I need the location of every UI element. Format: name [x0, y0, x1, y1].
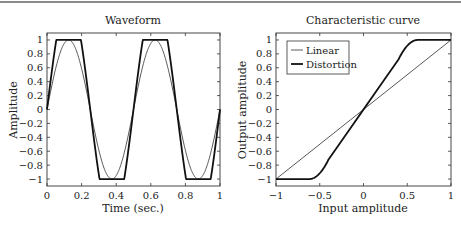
y-tick-label: 0.4: [256, 76, 272, 87]
y-tick-label: −0.4: [19, 132, 43, 143]
x-tick-label: 0.4: [108, 190, 124, 201]
y-tick-label: 0.8: [256, 48, 272, 59]
chart-title: Characteristic curve: [306, 14, 420, 27]
y-tick-label: 0.4: [27, 76, 43, 87]
legend: Linear Distortion: [287, 41, 357, 74]
y-tick-label: −0.8: [248, 160, 272, 171]
characteristic-curve-chart: Characteristic curve −1−0.500.5110.80.60…: [236, 14, 454, 215]
axes: 00.20.40.60.8110.80.60.40.20−0.2−0.4−0.6…: [19, 33, 223, 201]
x-tick-label: 0.2: [74, 190, 90, 201]
x-tick-label: −0.5: [308, 190, 332, 201]
figure: Waveform 00.20.40.60.8110.80.60.40.20−0.…: [0, 0, 461, 227]
y-tick-label: −0.6: [248, 146, 272, 157]
x-tick-label: 0.8: [177, 190, 193, 201]
y-tick-label: 0.2: [256, 90, 272, 101]
y-axis-label: Amplitude: [7, 81, 20, 140]
y-tick-label: 0: [37, 104, 43, 115]
legend-distortion-label: Distortion: [306, 59, 357, 70]
x-tick-label: 0: [360, 190, 366, 201]
y-tick-label: −0.6: [19, 146, 43, 157]
waveform-chart: Waveform 00.20.40.60.8110.80.60.40.20−0.…: [7, 14, 223, 215]
x-tick-label: −1: [269, 190, 284, 201]
x-tick-label: 0: [44, 190, 50, 201]
y-tick-label: 1: [37, 34, 43, 45]
y-tick-label: −0.4: [248, 132, 272, 143]
x-axis-label: Time (sec.): [102, 202, 164, 215]
y-axis-label: Output amplitude: [236, 61, 249, 160]
y-tick-label: 0: [266, 104, 272, 115]
y-tick-label: 0.6: [27, 62, 43, 73]
y-tick-label: −1: [257, 174, 272, 185]
x-tick-label: 1: [448, 190, 454, 201]
y-tick-label: 0.6: [256, 62, 272, 73]
y-tick-label: −0.2: [248, 118, 272, 129]
legend-linear-label: Linear: [306, 45, 339, 56]
x-axis-label: Input amplitude: [318, 202, 408, 215]
y-tick-label: −0.8: [19, 160, 43, 171]
x-tick-label: 1: [217, 190, 223, 201]
chart-title: Waveform: [105, 14, 162, 27]
y-tick-label: −1: [28, 174, 43, 185]
y-tick-label: 0.2: [27, 90, 43, 101]
y-tick-label: 1: [266, 34, 272, 45]
y-tick-label: −0.2: [19, 118, 43, 129]
x-tick-label: 0.6: [143, 190, 159, 201]
distorted-curve: [47, 40, 220, 179]
y-tick-label: 0.8: [27, 48, 43, 59]
x-tick-label: 0.5: [399, 190, 415, 201]
